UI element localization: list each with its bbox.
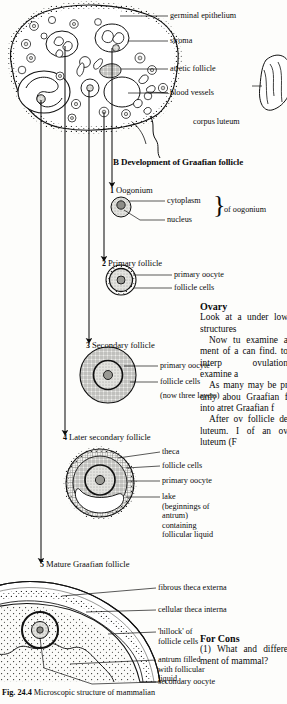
ovary-section-diagram (10, 5, 287, 158)
stage-pointer-arrows (41, 46, 112, 560)
for-consideration-section: For Cons (1) What and differe ment of ma… (200, 633, 287, 704)
label-theca: theca (162, 447, 179, 457)
part-b-heading: B Development of Graafian follicle (113, 157, 243, 167)
stage-3-title: 3Secondary follicle (86, 340, 155, 350)
stage-1-oogonium-drawing (111, 197, 165, 220)
for-consideration-heading: For Cons (200, 633, 287, 644)
stage-2-name: Primary follicle (108, 258, 162, 268)
label-hillock-of-follicle-cells: 'hillock' of follicle cells (158, 627, 206, 646)
label-corpus-luteum: corpus luteum (193, 117, 240, 127)
stage-4-name: Later secondary follicle (69, 432, 151, 442)
ovary-para-4: After ov follicle de luteum. I of an ov … (200, 414, 287, 448)
figure-caption-label: Fig. 24.4 (2, 688, 32, 697)
label-follicle-cells-3: follicle cells (160, 377, 200, 387)
stage-4-later-secondary-follicle-drawing (66, 449, 160, 517)
stage-3-secondary-follicle-drawing (80, 347, 158, 403)
label-of-oogonium: of oogonium (224, 205, 266, 215)
label-cytoplasm: cytoplasm (167, 196, 201, 206)
label-stroma: stroma (170, 36, 192, 46)
textbook-figure-page: germinal epithelium stroma atretic folli… (0, 0, 287, 704)
stage-2-primary-follicle-drawing (106, 265, 172, 295)
ovary-para-3: As many may be pr only abou Graafian f i… (200, 380, 287, 414)
label-atretic-follicle: atretic follicle (170, 64, 216, 74)
stage-5-title: 5Mature Graafian follicle (40, 559, 130, 569)
label-nucleus: nucleus (167, 215, 192, 225)
part-a-leader-lines (120, 16, 262, 93)
stage-4-title: 4Later secondary follicle (63, 432, 151, 442)
figure-caption-text: Microscopic structure of mammalian (34, 688, 155, 697)
stage-1-title: 1Oogonium (110, 185, 153, 195)
label-follicle-cells-2: follicle cells (174, 283, 214, 293)
figure-caption: Fig. 24.4 Microscopic structure of mamma… (2, 688, 202, 698)
stage-3-name: Secondary follicle (92, 340, 155, 350)
label-follicle-cells-4: follicle cells (162, 461, 202, 471)
stage-1-name: Oogonium (116, 185, 153, 195)
ovary-heading: Ovary (200, 301, 287, 312)
stage-2-title: 2Primary follicle (102, 258, 162, 268)
label-primary-oocyte-2: primary oocyte (174, 270, 224, 280)
ovary-para-2: Now tu examine a ment of a can find. to … (200, 335, 287, 380)
stage-5-name: Mature Graafian follicle (46, 559, 130, 569)
label-germinal-epithelium: germinal epithelium (170, 11, 236, 21)
label-blood-vessels: blood vessels (170, 88, 214, 98)
stage-5-mature-graafian-follicle-drawing (0, 582, 160, 684)
for-consideration-text: (1) What and differe ment of mammal? (200, 644, 287, 667)
ovary-para-1: Look at a under low structures (200, 312, 287, 335)
